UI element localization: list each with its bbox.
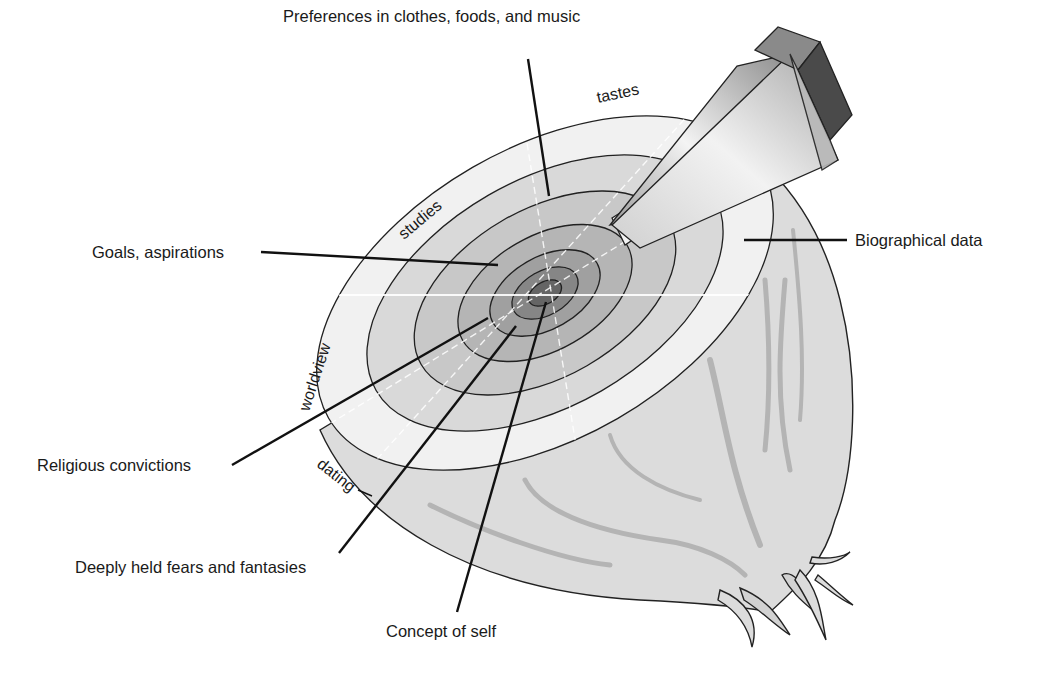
onion-diagram: tastes studies worldview dating Preferen… (0, 0, 1046, 677)
callout-self: Concept of self (386, 622, 496, 640)
callout-religious: Religious convictions (37, 456, 191, 474)
label-tastes: tastes (595, 80, 640, 106)
callout-goals: Goals, aspirations (92, 243, 224, 261)
callout-biographical: Biographical data (855, 231, 983, 249)
callout-fears: Deeply held fears and fantasies (75, 558, 306, 576)
callout-preferences: Preferences in clothes, foods, and music (283, 7, 580, 25)
